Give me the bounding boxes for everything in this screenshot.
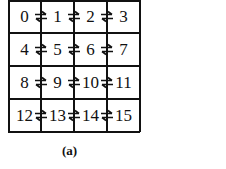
edge-9-10-arrow-icon [68, 78, 80, 88]
figure-caption: (a) [62, 143, 77, 159]
edge-0-1-arrow-icon [35, 12, 47, 22]
edges-layer [8, 0, 140, 132]
edge-2-3-arrow-icon [101, 12, 113, 22]
edge-10-11-arrow-icon [101, 78, 113, 88]
edge-13-14-arrow-icon [68, 111, 80, 121]
edge-5-6-arrow-icon [68, 45, 80, 55]
edge-1-2-arrow-icon [68, 12, 80, 22]
edge-14-15-arrow-icon [101, 111, 113, 121]
edge-8-9-arrow-icon [35, 78, 47, 88]
edge-6-7-arrow-icon [101, 45, 113, 55]
mesh-grid: 0123456789101112131415 [8, 0, 140, 132]
edge-12-13-arrow-icon [35, 111, 47, 121]
edge-4-5-arrow-icon [35, 45, 47, 55]
